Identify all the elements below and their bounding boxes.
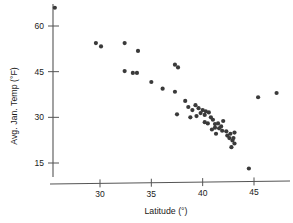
data-point xyxy=(136,49,140,53)
data-point xyxy=(216,121,220,125)
x-tick-label: 35 xyxy=(147,189,157,199)
data-point xyxy=(274,91,278,95)
x-tick-label: 45 xyxy=(249,187,259,197)
data-point xyxy=(123,69,127,73)
y-tick-label: 45 xyxy=(35,67,45,77)
data-point xyxy=(131,71,135,75)
data-point xyxy=(206,121,210,125)
data-point xyxy=(228,132,232,136)
data-point xyxy=(94,41,98,45)
x-tick-group: 30354045 xyxy=(95,177,259,199)
y-tick-label: 60 xyxy=(35,21,45,31)
data-point xyxy=(53,6,57,10)
data-point xyxy=(123,41,127,45)
data-point xyxy=(210,127,214,131)
data-point xyxy=(194,114,198,118)
data-point xyxy=(193,103,197,107)
y-tick-label: 30 xyxy=(35,112,45,122)
data-point xyxy=(186,105,190,109)
data-point xyxy=(183,99,187,103)
data-point xyxy=(231,136,235,140)
y-tick-group: 15304560 xyxy=(35,21,59,168)
scatter-plot-figure: 15304560 30354045 Avg. Jan. Temp (°F) La… xyxy=(0,0,293,223)
x-tick-label: 40 xyxy=(198,188,208,198)
data-point xyxy=(99,44,103,48)
data-point xyxy=(203,113,207,117)
x-tick-label: 30 xyxy=(95,189,105,199)
data-point xyxy=(207,110,211,114)
y-axis-title: Avg. Jan. Temp (°F) xyxy=(9,67,19,145)
data-point xyxy=(149,80,153,84)
data-point xyxy=(175,112,179,116)
data-point xyxy=(232,130,236,134)
data-point xyxy=(190,108,194,112)
y-tick-label: 15 xyxy=(35,158,45,168)
data-point xyxy=(176,65,180,69)
data-point xyxy=(135,71,139,75)
data-point xyxy=(214,132,218,136)
data-points-group xyxy=(53,6,279,171)
plot-canvas: 15304560 30354045 Avg. Jan. Temp (°F) La… xyxy=(0,0,293,223)
data-point xyxy=(229,145,233,149)
data-point xyxy=(224,129,228,133)
data-point xyxy=(247,166,251,170)
data-point xyxy=(196,106,200,110)
data-point xyxy=(219,124,223,128)
data-point xyxy=(232,141,236,145)
data-point xyxy=(188,115,192,119)
x-axis-title: Latitude (°) xyxy=(144,206,187,216)
axes-group xyxy=(50,4,290,184)
data-point xyxy=(220,129,224,133)
data-point xyxy=(161,87,165,91)
data-point xyxy=(211,118,215,122)
data-point xyxy=(221,119,225,123)
data-point xyxy=(256,95,260,99)
data-point xyxy=(173,90,177,94)
